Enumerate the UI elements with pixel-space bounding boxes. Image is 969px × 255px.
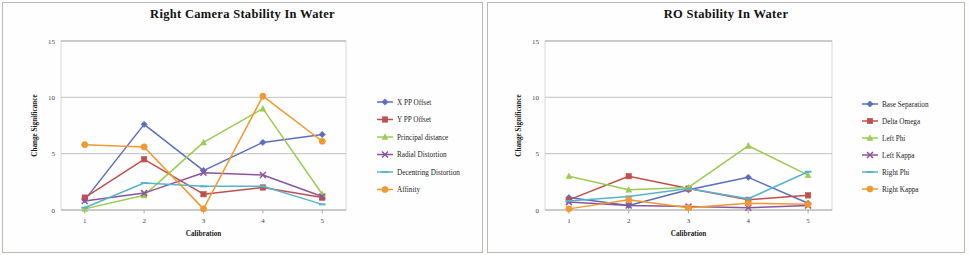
legend-label: Base Separation: [882, 101, 929, 109]
x-axis-title: Calibration: [186, 230, 222, 238]
y-axis-title: Change Significance: [31, 94, 39, 157]
legend-item-base-separation: Base Separation: [862, 101, 929, 109]
legend-label: Affinity: [397, 186, 420, 194]
legend-marker: [382, 117, 387, 122]
legend-item-principal-distance: Principal distance: [377, 134, 448, 142]
data-point: [626, 174, 631, 179]
x-axis-title: Calibration: [671, 230, 707, 238]
data-point: [319, 138, 325, 144]
legend-marker: [382, 186, 388, 192]
y-axis-tick-label: 0: [52, 207, 56, 215]
x-axis-tick-label: 5: [321, 217, 325, 225]
figure-sheet: Right Camera Stability In Water 05101512…: [0, 0, 969, 255]
data-point: [685, 205, 691, 211]
x-axis-tick-label: 2: [627, 217, 631, 225]
data-point: [805, 201, 811, 207]
x-axis-tick-label: 3: [202, 217, 206, 225]
legend-item-affinity: Affinity: [377, 186, 420, 194]
legend-item-right-kappa: Right Kappa: [862, 186, 919, 194]
legend-marker: [867, 118, 872, 123]
legend-item-radial-distortion: Radial Distortion: [377, 151, 447, 159]
legend-item-y-pp-offset: Y PP Offset: [377, 116, 431, 124]
x-axis-tick-label: 5: [806, 217, 810, 225]
data-point: [745, 174, 751, 180]
data-point: [200, 206, 206, 212]
legend-label: Left Phi: [882, 135, 905, 143]
legend-item-right-phi: Right Phi: [862, 169, 909, 177]
y-axis-tick-label: 5: [52, 150, 56, 158]
legend-label: Radial Distortion: [397, 151, 447, 159]
data-point: [745, 200, 751, 206]
data-point: [82, 142, 88, 148]
y-axis-tick-label: 5: [536, 150, 540, 158]
x-axis-tick-label: 1: [567, 217, 571, 225]
data-point: [566, 173, 572, 179]
chart-svg-right: 05101512345CalibrationChange Significanc…: [488, 3, 965, 253]
chart-svg-left: 05101512345CalibrationChange Significanc…: [3, 3, 483, 253]
data-point: [626, 197, 632, 203]
legend-label: X PP Offset: [397, 99, 431, 107]
data-point: [201, 139, 207, 145]
x-axis-tick-label: 3: [687, 217, 691, 225]
legend-item-left-phi: Left Phi: [862, 135, 905, 143]
legend-label: Delta Omega: [882, 118, 921, 126]
y-axis-tick-label: 15: [48, 38, 56, 46]
legend-label: Right Kappa: [882, 186, 919, 194]
y-axis-tick-label: 15: [532, 38, 540, 46]
y-axis-tick-label: 10: [532, 94, 540, 102]
data-point: [745, 143, 751, 149]
legend-item-delta-omega: Delta Omega: [862, 118, 921, 126]
chart-panel-right-camera: Right Camera Stability In Water 05101512…: [2, 2, 483, 253]
legend-label: Right Phi: [882, 169, 909, 177]
legend-label: Left Kappa: [882, 152, 915, 160]
x-axis-tick-label: 2: [142, 217, 146, 225]
data-point: [566, 206, 572, 212]
data-point: [260, 139, 266, 145]
data-point: [805, 193, 810, 198]
x-axis-tick-label: 1: [83, 217, 87, 225]
data-point: [201, 192, 206, 197]
legend-item-x-pp-offset: X PP Offset: [377, 99, 431, 107]
y-axis-tick-label: 0: [536, 207, 540, 215]
legend-item-decentring-distortion: Decentring Distortion: [377, 169, 460, 177]
legend-label: Decentring Distortion: [397, 169, 460, 177]
legend-label: Y PP Offset: [397, 116, 431, 124]
legend-marker: [867, 186, 873, 192]
y-axis-tick-label: 10: [48, 94, 56, 102]
data-point: [141, 144, 147, 150]
data-point: [260, 93, 266, 99]
chart-panel-ro: RO Stability In Water 05101512345Calibra…: [487, 2, 965, 253]
legend-label: Principal distance: [397, 134, 448, 142]
data-point: [141, 157, 146, 162]
x-axis-tick-label: 4: [747, 217, 751, 225]
data-point: [260, 105, 266, 111]
x-axis-tick-label: 4: [261, 217, 265, 225]
legend-marker: [382, 99, 388, 105]
y-axis-title: Change Significance: [515, 94, 523, 157]
series-line-x-pp-offset: [85, 124, 323, 199]
data-point: [319, 131, 325, 137]
series-line-left-phi: [569, 146, 808, 190]
legend-marker: [867, 101, 873, 107]
legend-item-left-kappa: Left Kappa: [862, 152, 915, 160]
